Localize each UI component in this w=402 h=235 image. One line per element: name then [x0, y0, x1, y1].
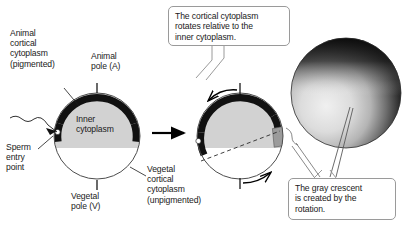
egg2-sperm-entry-dot	[196, 138, 201, 143]
gray-crescent-leader-1	[292, 146, 314, 177]
label-animal-cortical-cytoplasm: Animal cortical cytoplasm (pigmented)	[10, 28, 72, 69]
photo-pigment-cap	[291, 38, 401, 96]
label-vegetal-cortical-cytoplasm: Vegetal cortical cytoplasm (unpigmented)	[147, 164, 225, 205]
gray-crescent-leader-2	[296, 143, 320, 177]
label-inner-cytoplasm: Inner cytoplasm	[76, 114, 126, 134]
leader-vegetal-cortical	[130, 167, 146, 176]
label-animal-pole: Animal pole (A)	[91, 51, 147, 71]
callout-gray-crescent: The gray crescent is created by the rota…	[288, 178, 396, 220]
egg-before-rotation	[10, 83, 146, 190]
gray-crescent-bracket	[286, 128, 298, 145]
callout-bottom-tail	[314, 170, 336, 178]
callout-cortical-rotation: The cortical cytoplasm rotates relative …	[168, 6, 290, 46]
figure-root: Animal cortical cytoplasm (pigmented) An…	[0, 0, 402, 235]
label-vegetal-pole: Vegetal pole (V)	[71, 191, 131, 211]
label-sperm-entry-point: Sperm entry point	[6, 142, 48, 173]
callout-top-tail	[196, 46, 224, 80]
egg2-inner-cytoplasm	[195, 93, 285, 148]
egg1-sperm-entry-dot	[55, 129, 60, 134]
gray-crescent-photograph	[291, 38, 401, 177]
